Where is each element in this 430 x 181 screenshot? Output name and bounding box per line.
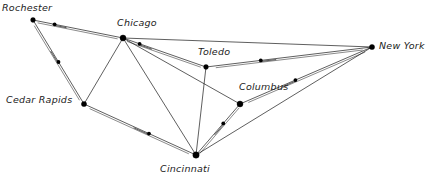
- node-dot-new-york[interactable]: [369, 44, 374, 49]
- graph-canvas: [0, 0, 430, 181]
- node-label-chicago: Chicago: [117, 18, 157, 28]
- edge-chicago-cincinnati: [123, 38, 196, 155]
- direction-marker-tail-cedar-cincinnati: [134, 128, 149, 135]
- direction-marker-rochester-cedar: [57, 60, 61, 64]
- node-label-cincinnati: Cincinnati: [160, 164, 210, 174]
- edge-parallel-rochester-chicago: [38, 23, 117, 39]
- node-dot-toledo[interactable]: [204, 65, 209, 70]
- network-diagram: RochesterChicagoToledoNew YorkCedar Rapi…: [0, 0, 430, 181]
- edge-cincinnati-new-york: [196, 47, 372, 155]
- direction-marker-cincinnati-columbus: [221, 121, 225, 125]
- node-dot-chicago[interactable]: [120, 35, 126, 41]
- direction-marker-chicago-toledo: [138, 42, 142, 46]
- node-label-toledo: Toledo: [198, 47, 230, 57]
- edge-parallel-cedar-cincinnati: [90, 109, 189, 154]
- node-label-columbus: Columbus: [239, 82, 288, 92]
- edge-parallel-chicago-toledo: [127, 42, 200, 68]
- edge-chicago-cedar-rapids: [84, 38, 123, 104]
- direction-markers-layer: [51, 22, 297, 135]
- edges-layer: [33, 20, 372, 155]
- node-label-rochester: Rochester: [2, 3, 52, 13]
- edge-cincinnati-columbus: [196, 104, 240, 155]
- node-dot-columbus[interactable]: [237, 101, 243, 107]
- direction-marker-toledo-new-york: [259, 59, 263, 63]
- node-dot-cincinnati[interactable]: [193, 152, 199, 158]
- edge-toledo-new-york: [206, 47, 372, 67]
- edge-parallel-cincinnati-columbus: [200, 108, 239, 153]
- nodes-layer: [31, 18, 375, 159]
- direction-marker-columbus-new-york: [294, 78, 298, 82]
- node-dot-rochester[interactable]: [31, 18, 36, 23]
- edge-columbus-new-york: [240, 47, 372, 104]
- direction-marker-tail-cincinnati-columbus: [215, 124, 224, 135]
- node-label-new-york: New York: [379, 41, 425, 51]
- node-dot-cedar-rapids[interactable]: [81, 101, 86, 106]
- edge-chicago-new-york: [123, 38, 372, 47]
- direction-marker-rochester-chicago: [53, 22, 57, 26]
- edge-rochester-chicago: [33, 20, 123, 38]
- edge-parallel-toledo-new-york: [216, 50, 362, 68]
- direction-marker-cedar-cincinnati: [147, 132, 151, 136]
- direction-marker-tail-rochester-cedar: [51, 51, 58, 62]
- node-label-cedar-rapids: Cedar Rapids: [6, 95, 72, 105]
- edge-cedar-cincinnati: [84, 104, 196, 155]
- edge-chicago-toledo: [123, 38, 206, 67]
